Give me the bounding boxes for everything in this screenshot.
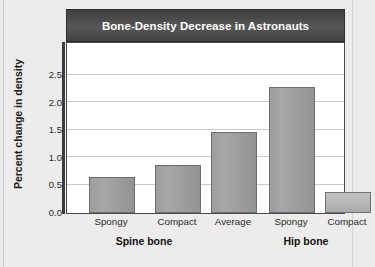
y-axis-tick-labels: 2.5 2.0 1.5 1.0 0.5 0.0 (26, 0, 62, 267)
plot-inner (67, 43, 344, 213)
y-tick-label-1.5: 1.5 (36, 124, 62, 135)
x-axis-category-labels: Spongy Compact Average Spongy Compact (66, 216, 345, 232)
bar-spine-compact[interactable] (155, 165, 201, 213)
y-tick-label-2.0: 2.0 (36, 97, 62, 108)
y-tick-label-0.5: 0.5 (36, 179, 62, 190)
x-label-spine-spongy: Spongy (76, 216, 146, 227)
bar-spine-spongy[interactable] (89, 177, 135, 213)
y-axis-line (62, 42, 65, 214)
chart-title: Bone-Density Decrease in Astronauts (102, 20, 309, 32)
x-label-hip-compact: Compact (312, 216, 375, 227)
page-edge-line-left (3, 0, 4, 267)
y-tick-label-1.0: 1.0 (36, 152, 62, 163)
group-label-hip-bone: Hip bone (241, 235, 371, 247)
group-label-spine-bone: Spine bone (79, 235, 209, 247)
y-tick-label-2.5: 2.5 (36, 69, 62, 80)
y-axis-title: Percent change in density (12, 49, 24, 199)
x-axis-group-labels: Spine bone Hip bone (66, 235, 345, 253)
bar-spine-average[interactable] (211, 132, 257, 213)
y-tick-label-0.0: 0.0 (36, 207, 62, 218)
bar-hip-spongy[interactable] (269, 87, 315, 213)
plot-area (66, 42, 345, 214)
chart-title-bar: Bone-Density Decrease in Astronauts (66, 9, 345, 42)
chart-figure: Bone-Density Decrease in Astronauts (66, 9, 345, 214)
bar-hip-compact[interactable] (325, 192, 371, 214)
bars-layer (67, 43, 344, 213)
